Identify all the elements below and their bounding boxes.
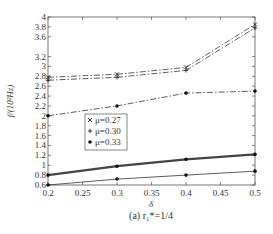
- chart-caption: (a) r₁*=1/4: [129, 210, 173, 222]
- x-tick-label: 0.35: [144, 188, 160, 198]
- y-tick-label: 2.6: [35, 81, 47, 91]
- x-tick-label: 0.4: [180, 188, 192, 198]
- legend: μ=0.27μ=0.30μ=0.33: [85, 114, 127, 150]
- series-0.33: [46, 89, 257, 117]
- y-tick-label: 2.8: [35, 71, 47, 81]
- plot-border: [48, 17, 255, 185]
- y-tick-label: 4: [42, 12, 47, 22]
- x-tick-label: 0.2: [42, 188, 53, 198]
- y-tick-label: 3.6: [35, 32, 47, 42]
- dot-marker-icon: [46, 114, 50, 118]
- y-tick-label: 2.4: [35, 91, 47, 101]
- y-tick-label: 2: [42, 111, 47, 121]
- x-tick-label: 0.45: [213, 188, 229, 198]
- series-line: [48, 24, 255, 77]
- dot-marker-icon: [46, 183, 50, 187]
- dot-marker-icon: [253, 89, 257, 93]
- x-axis-label: δ: [149, 199, 154, 209]
- x-tick-label: 0.3: [111, 188, 123, 198]
- dot-marker-icon: [253, 153, 257, 157]
- y-tick-label: 1.4: [35, 140, 47, 150]
- x-tick-label: 0.25: [75, 188, 91, 198]
- series-line: [48, 28, 255, 80]
- dot-marker-icon: [115, 164, 119, 168]
- x-tick-label: 0.5: [249, 188, 261, 198]
- dot-marker-icon: [253, 169, 257, 173]
- series-line: [48, 91, 255, 116]
- dot-marker-icon: [184, 173, 188, 177]
- dot-marker-icon: [46, 173, 50, 177]
- y-tick-label: 2.2: [35, 101, 46, 111]
- y-tick-label: 1.8: [35, 121, 47, 131]
- dot-marker-icon: [115, 177, 119, 181]
- legend-label: μ=0.27: [95, 115, 121, 125]
- plot-frame: [48, 17, 255, 185]
- line-chart: 0.60.811.21.41.61.822.22.42.62.833.23.63…: [0, 0, 273, 234]
- dot-marker-icon: [184, 91, 188, 95]
- legend-label: μ=0.33: [95, 137, 121, 147]
- y-tick-label: 3.2: [35, 52, 46, 62]
- y-tick-label: 1.6: [35, 131, 47, 141]
- y-tick-label: 0.8: [35, 170, 47, 180]
- y-tick-label: 3.8: [35, 22, 47, 32]
- dot-marker-icon: [184, 158, 188, 162]
- y-tick-label: 1: [42, 160, 47, 170]
- series-line: [48, 154, 255, 175]
- series-layer: [46, 22, 257, 186]
- y-tick-label: 1.2: [35, 150, 46, 160]
- dot-marker-icon: [88, 140, 92, 144]
- series-0.30: [46, 26, 257, 83]
- series-0.27: [46, 22, 257, 79]
- legend-label: μ=0.30: [95, 126, 121, 136]
- y-tick-label: 3: [42, 61, 47, 71]
- dot-marker-icon: [115, 104, 119, 108]
- y-axis-label: f/(10²Hz): [5, 85, 15, 118]
